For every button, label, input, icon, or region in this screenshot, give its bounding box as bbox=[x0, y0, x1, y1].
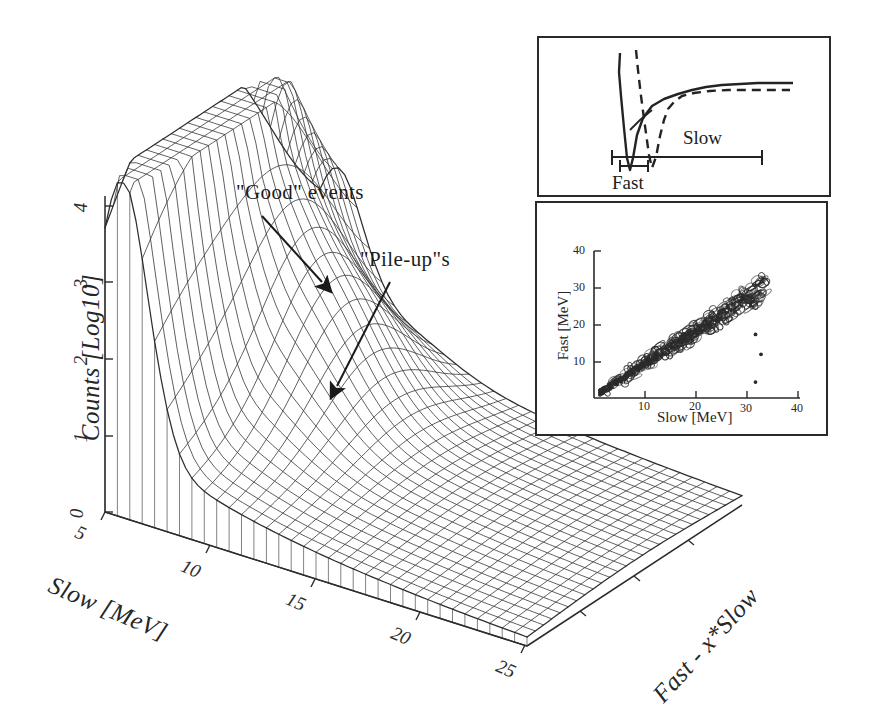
inset-fast-vs-slow bbox=[0, 0, 885, 718]
inset2-y-tick-40: 40 bbox=[573, 244, 585, 256]
inset2-x-tick-30: 30 bbox=[740, 402, 752, 414]
figure-root: Counts [Log10] Slow [MeV] Fast - x*Slow … bbox=[0, 0, 885, 718]
inset2-y-tick-30: 30 bbox=[573, 281, 585, 293]
inset2-x-tick-20: 20 bbox=[689, 400, 701, 412]
inset2-y-axis-label: Fast [MeV] bbox=[556, 266, 571, 386]
inset2-outlier-point bbox=[754, 333, 758, 337]
inset2-x-tick-40: 40 bbox=[791, 402, 803, 414]
inset2-y-tick-20: 20 bbox=[573, 318, 585, 330]
inset2-outlier-point bbox=[759, 352, 763, 356]
inset2-x-tick-10: 10 bbox=[638, 400, 650, 412]
inset2-y-tick-10: 10 bbox=[573, 355, 585, 367]
inset2-outlier-point bbox=[754, 380, 758, 384]
